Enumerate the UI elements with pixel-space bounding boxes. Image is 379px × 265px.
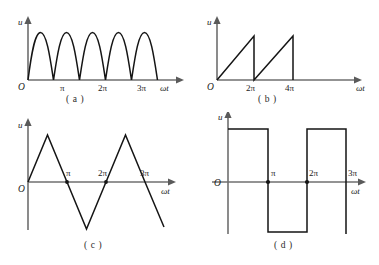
tick-label-a-0: π (60, 83, 65, 92)
tick-label-c-1: 2π (98, 168, 108, 178)
tick-label-d-2: 3π (348, 168, 358, 178)
waveform-chart-c: O π 2π 3π ωt u (0, 118, 190, 240)
tick-label-d-1: 2π (309, 168, 319, 178)
y-axis-label-b: u (207, 17, 212, 27)
panel-caption-d: ( d ) (274, 240, 293, 250)
x-axis-arrowhead-c (168, 178, 176, 185)
zero-crossing-dot-d-0 (266, 180, 270, 184)
tick-label-b-1: 4π (285, 83, 295, 92)
panel-caption-b: ( b ) (258, 94, 277, 104)
x-axis-label-b: ωt (356, 83, 365, 92)
y-axis-label-a: u (18, 17, 23, 27)
tick-label-c-0: π (66, 168, 71, 178)
tick-label-a-1: 2π (98, 83, 108, 92)
y-axis-arrowhead-d (224, 112, 231, 118)
tick-label-b-0: 2π (246, 83, 256, 92)
waveform-panel-c: O π 2π 3π ωt u (0, 118, 190, 240)
waveform-panel-b: O 2π 4π ωt u (190, 0, 379, 92)
x-axis-arrowhead-a (176, 76, 184, 83)
zero-crossing-dot-c-0 (65, 180, 69, 184)
panel-caption-a: ( a ) (66, 94, 84, 104)
x-axis-label-c: ωt (161, 186, 170, 196)
x-axis-arrowhead-d (358, 178, 366, 185)
tick-label-a-2: 3π (137, 83, 147, 92)
waveform-curve-b (217, 36, 293, 80)
waveform-chart-a: O π 2π 3π ωt u (0, 0, 190, 92)
x-axis-label-a: ωt (160, 83, 169, 92)
waveform-panel-d: O π 2π 3π ωt u (190, 112, 379, 240)
y-axis-arrowhead-b (213, 16, 220, 24)
waveform-chart-b: O 2π 4π ωt u (190, 0, 379, 92)
x-axis-label-d: ωt (351, 186, 360, 196)
origin-label-b: O (207, 82, 214, 92)
waveform-curve-a (28, 33, 158, 81)
panel-caption-c: ( c ) (84, 240, 102, 250)
zero-crossing-dot-c-1 (104, 180, 108, 184)
figure-sheet: O π 2π 3π ωt u O 2π 4π ωt u (0, 0, 379, 265)
origin-label-a: O (18, 82, 25, 92)
y-axis-arrowhead-a (24, 16, 31, 24)
origin-label-d: O (214, 178, 221, 188)
y-axis-label-c: u (18, 120, 23, 130)
y-axis-arrowhead-c (24, 118, 31, 126)
tick-label-c-2: 3π (140, 168, 150, 178)
waveform-panel-a: O π 2π 3π ωt u (0, 0, 190, 92)
origin-label-c: O (18, 184, 25, 194)
y-axis-label-d: u (218, 112, 223, 122)
tick-label-d-0: π (271, 168, 276, 178)
zero-crossing-dot-d-1 (305, 180, 309, 184)
waveform-chart-d: O π 2π 3π ωt u (190, 112, 379, 240)
